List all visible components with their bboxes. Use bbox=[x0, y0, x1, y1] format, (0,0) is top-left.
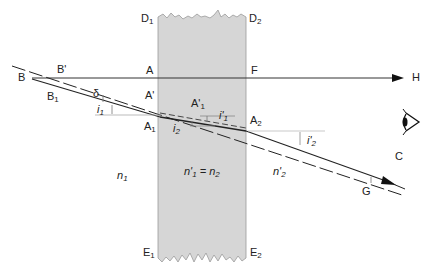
label-i2: i2 bbox=[173, 123, 180, 136]
label-n1: n1 bbox=[117, 170, 128, 183]
label-i-prime2: i'2 bbox=[307, 135, 316, 148]
ray-emergent-tail bbox=[393, 184, 405, 189]
label-B1: B1 bbox=[47, 91, 59, 104]
label-A-prime1: A'1 bbox=[191, 98, 205, 111]
label-n-prime2: n'2 bbox=[273, 166, 286, 179]
glass-slab bbox=[158, 10, 246, 262]
label-C: C bbox=[395, 151, 403, 162]
label-i-prime1: i'1 bbox=[219, 110, 228, 123]
label-E2: E2 bbox=[250, 247, 262, 260]
label-E1: E1 bbox=[143, 247, 155, 260]
label-delta: δ bbox=[93, 88, 99, 99]
label-B: B bbox=[18, 72, 25, 83]
diagram-canvas bbox=[0, 0, 439, 274]
label-B-prime: B' bbox=[57, 64, 66, 75]
label-slab-index: n'1 = n2 bbox=[184, 166, 220, 179]
label-D2: D2 bbox=[249, 13, 261, 26]
label-A2: A2 bbox=[250, 115, 262, 128]
label-A: A bbox=[146, 65, 153, 76]
label-i1: i1 bbox=[97, 104, 104, 117]
label-D1: D1 bbox=[141, 13, 153, 26]
eye-icon bbox=[403, 109, 420, 135]
arrow-C-icon bbox=[381, 176, 396, 185]
label-A-prime: A' bbox=[145, 90, 154, 101]
label-A1: A1 bbox=[144, 121, 156, 134]
ray-emergent bbox=[246, 131, 386, 181]
label-H: H bbox=[412, 72, 420, 83]
label-G: G bbox=[362, 186, 371, 197]
label-F: F bbox=[251, 65, 258, 76]
arrow-H-icon bbox=[392, 74, 404, 82]
